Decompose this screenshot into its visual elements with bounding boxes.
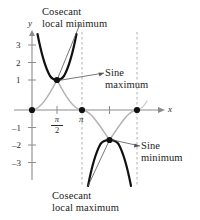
x-tick-label-pi-over-2: π 2 xyxy=(51,115,63,135)
x-tick-pi-denominator: 2 xyxy=(51,126,63,135)
leader-cosecant-min xyxy=(57,24,80,80)
annotation-cosecant-min-line2: local minimum xyxy=(42,18,107,30)
y-tick-label-neg3: –3 xyxy=(12,158,21,168)
annotation-sine-minimum: Sine minimum xyxy=(141,140,183,163)
annotation-sine-max-line2: maximum xyxy=(105,79,148,91)
annotation-cosecant-max-line2: local maximum xyxy=(52,202,119,214)
y-tick-label-3: 3 xyxy=(16,40,21,50)
annotation-sine-min-line1: Sine xyxy=(141,140,183,152)
annotation-cosecant-local-maximum: Cosecant local maximum xyxy=(52,190,119,213)
x-axis-label: x xyxy=(168,104,172,114)
y-tick-label-2: 2 xyxy=(16,58,21,68)
annotation-cosecant-min-line1: Cosecant xyxy=(42,6,107,18)
annotation-cosecant-local-minimum: Cosecant local minimum xyxy=(42,6,107,29)
y-tick-label-neg1: –1 xyxy=(12,123,21,133)
leader-sine-max-arrow xyxy=(99,73,105,77)
x-tick-label-pi: π xyxy=(79,114,84,124)
cosecant-branch-upper xyxy=(38,34,77,80)
y-axis-label: y xyxy=(28,18,32,28)
point-two-pi-zero xyxy=(134,107,140,113)
x-axis-arrow xyxy=(158,107,165,113)
point-pi-zero xyxy=(79,107,85,113)
annotation-cosecant-max-line1: Cosecant xyxy=(52,190,119,202)
point-sine-minimum xyxy=(106,137,112,143)
annotation-sine-max-line1: Sine xyxy=(105,67,148,79)
point-origin xyxy=(29,107,35,113)
y-axis-arrow xyxy=(29,30,35,36)
annotation-sine-min-line2: minimum xyxy=(141,152,183,164)
x-tick-pi-numerator: π xyxy=(51,115,63,124)
annotation-sine-maximum: Sine maximum xyxy=(105,67,148,90)
y-tick-label-1: 1 xyxy=(16,75,21,85)
point-sine-maximum xyxy=(54,77,60,83)
cosecant-branch-lower xyxy=(88,140,131,186)
y-tick-label-neg2: –2 xyxy=(12,140,21,150)
trig-graph-figure: 3 2 1 –1 –2 –3 π 2 π y x Cosecant local … xyxy=(0,0,200,220)
